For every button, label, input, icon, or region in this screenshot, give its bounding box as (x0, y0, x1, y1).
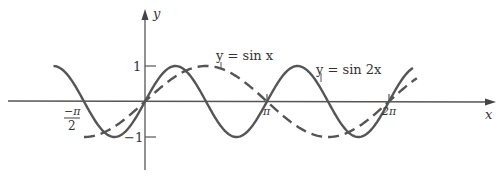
x-axis (8, 101, 488, 102)
y-axis-label: y (152, 6, 161, 21)
x-tick-label-neg-half-pi-numerator: −π (64, 105, 81, 118)
legend-sin-2x: y = sin 2x (315, 62, 382, 77)
y-tick-label-1: 1 (133, 59, 141, 74)
x-tick-label-2pi: 2π (381, 105, 397, 118)
sine-graph: y x 1 −1 −π 2 π 2π y = sin x y = sin 2x (0, 0, 500, 176)
legend-sin-x: y = sin x (215, 48, 274, 63)
x-axis-label: x (485, 107, 493, 122)
x-axis-arrow-icon (485, 99, 496, 106)
y-axis-arrow-icon (142, 9, 149, 20)
x-tick-label-neg-half-pi-denominator: 2 (68, 119, 76, 133)
x-tick-label-pi: π (262, 105, 271, 118)
y-tick-label-minus-1: −1 (124, 130, 143, 145)
